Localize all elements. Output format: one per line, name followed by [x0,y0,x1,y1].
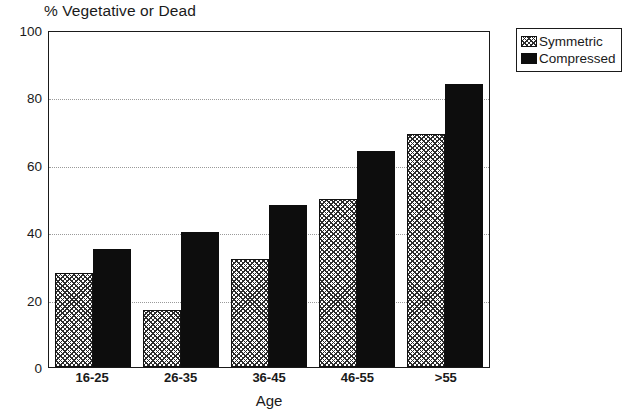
y-tick-label: 40 [2,226,42,241]
x-tick-label: 36-45 [225,370,313,392]
legend-item-symmetric: Symmetric [521,33,616,50]
bar-group [313,32,401,367]
bar-chart: % Vegetative or Dead 020406080100 16-252… [0,0,625,409]
legend-item-compressed: Compressed [521,50,616,67]
bar-compressed [357,151,395,367]
y-tick-label: 100 [2,24,42,39]
y-tick-label: 60 [2,158,42,173]
bar-symmetric [55,273,93,367]
x-tick-label: >55 [402,370,490,392]
x-tick-label: 46-55 [313,370,401,392]
x-tick-label: 16-25 [48,370,136,392]
x-axis-title: Age [48,392,490,409]
y-tick-label: 0 [2,361,42,376]
chart-title: % Vegetative or Dead [44,2,196,20]
bar-group [401,32,489,367]
y-axis: 020406080100 [0,31,42,368]
bar-symmetric [319,199,357,368]
x-axis-tick-labels: 16-2526-3536-4546-55>55 [48,370,490,392]
bar-compressed [445,84,483,367]
plot-area [48,31,490,368]
bar-symmetric [143,310,181,367]
legend: Symmetric Compressed [516,28,622,72]
legend-label-symmetric: Symmetric [539,35,603,49]
bar-groups [49,32,489,367]
bar-group [49,32,137,367]
bar-symmetric [231,259,269,367]
bar-group [137,32,225,367]
bar-compressed [269,205,307,367]
bar-symmetric [407,134,445,367]
bar-compressed [181,232,219,367]
bar-compressed [93,249,131,367]
y-tick-label: 20 [2,293,42,308]
y-tick-label: 80 [2,91,42,106]
legend-swatch-symmetric-icon [521,36,537,47]
legend-label-compressed: Compressed [539,52,616,66]
x-tick-label: 26-35 [136,370,224,392]
bar-group [225,32,313,367]
legend-swatch-compressed-icon [521,53,537,64]
